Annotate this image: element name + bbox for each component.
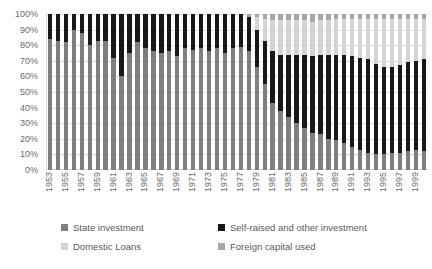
plot-area (46, 14, 428, 170)
bar-segment (270, 20, 274, 51)
x-axis-tick-label: 1993 (363, 172, 372, 192)
bar-segment (294, 123, 298, 170)
bar-segment (334, 55, 338, 141)
x-axis-tick-label: 1977 (236, 172, 245, 192)
bar-column (151, 14, 155, 170)
bar-segment (135, 42, 139, 170)
bar-column (270, 14, 274, 170)
bar-column (135, 14, 139, 170)
bar-column (247, 14, 251, 170)
bar-segment (358, 150, 362, 170)
legend-label-domestic-loans: Domestic Loans (73, 241, 141, 252)
legend-item-state-investment[interactable]: State investment (61, 222, 144, 233)
bar-segment (414, 61, 418, 150)
x-axis-tick-label: 1965 (140, 172, 149, 192)
bar-segment (390, 153, 394, 170)
bar-segment (358, 58, 362, 150)
bar-segment (103, 41, 107, 170)
y-axis-tick-label: 60% (20, 72, 38, 81)
bar-segment (326, 55, 330, 139)
bar-segment (310, 56, 314, 132)
bar-segment (414, 19, 418, 61)
y-axis: 0%10%20%30%40%50%60%70%80%90%100% (0, 14, 42, 170)
bar-segment (207, 14, 211, 51)
stacked-bar-chart: 0%10%20%30%40%50%60%70%80%90%100% 195319… (0, 0, 432, 269)
bar-column (191, 14, 195, 170)
bar-segment (239, 47, 243, 170)
bar-segment (382, 19, 386, 67)
bar-column (390, 14, 394, 170)
bar-segment (183, 14, 187, 48)
bar-segment (302, 128, 306, 170)
bar-column (48, 14, 52, 170)
y-axis-tick-label: 0% (25, 166, 38, 175)
x-axis-tick-label: 1967 (156, 172, 165, 192)
bar-column (111, 14, 115, 170)
bar-segment (263, 19, 267, 41)
bar-column (342, 14, 346, 170)
bar-segment (119, 14, 123, 76)
bar-segment (318, 20, 322, 54)
bar-segment (88, 14, 92, 45)
bar-segment (143, 14, 147, 48)
bar-column (286, 14, 290, 170)
bar-segment (48, 14, 52, 39)
bar-segment (167, 51, 171, 170)
bar-segment (342, 143, 346, 170)
bar-segment (422, 151, 426, 170)
bar-segment (151, 14, 155, 51)
chart-legend: State investment Self-raised and other i… (0, 220, 432, 264)
bar-segment (294, 20, 298, 54)
bar-segment (64, 42, 68, 170)
bar-segment (358, 19, 362, 58)
bar-segment (111, 14, 115, 58)
x-axis-tick-label: 1953 (45, 172, 54, 192)
bar-column (143, 14, 147, 170)
legend-swatch-foreign-capital (218, 243, 225, 250)
bar-segment (72, 14, 76, 30)
bar-column (302, 14, 306, 170)
bar-segment (326, 20, 330, 54)
bar-segment (398, 153, 402, 170)
bar-column (88, 14, 92, 170)
y-axis-tick-label: 20% (20, 134, 38, 143)
bar-column (56, 14, 60, 170)
bar-column (278, 14, 282, 170)
bar-column (350, 14, 354, 170)
bar-segment (382, 67, 386, 154)
bar-column (422, 14, 426, 170)
bar-segment (223, 14, 227, 53)
bar-segment (239, 14, 243, 47)
legend-label-foreign-capital: Foreign capital used (230, 241, 316, 252)
bar-segment (366, 153, 370, 170)
x-axis-tick-label: 1973 (204, 172, 213, 192)
bar-segment (207, 51, 211, 170)
bar-segment (255, 30, 259, 67)
bar-column (334, 14, 338, 170)
y-axis-tick-label: 70% (20, 56, 38, 65)
legend-item-foreign-capital[interactable]: Foreign capital used (218, 241, 316, 252)
bar-column (215, 14, 219, 170)
x-axis-tick-label: 1979 (252, 172, 261, 192)
legend-label-self-raised: Self-raised and other investment (230, 222, 367, 233)
bar-column (366, 14, 370, 170)
bar-column (294, 14, 298, 170)
bar-column (398, 14, 402, 170)
bar-segment (56, 41, 60, 170)
bar-segment (119, 76, 123, 170)
bar-column (72, 14, 76, 170)
x-axis-tick-label: 1959 (93, 172, 102, 192)
bar-segment (111, 58, 115, 170)
bar-segment (199, 48, 203, 170)
x-axis-tick-label: 1999 (411, 172, 420, 192)
legend-item-self-raised[interactable]: Self-raised and other investment (218, 222, 367, 233)
legend-item-domestic-loans[interactable]: Domestic Loans (61, 241, 141, 252)
x-axis-tick-label: 1997 (395, 172, 404, 192)
bar-segment (159, 53, 163, 170)
bar-segment (286, 55, 290, 117)
bar-series-container (46, 14, 428, 170)
bar-segment (103, 14, 107, 41)
bar-segment (374, 19, 378, 64)
y-axis-tick-label: 100% (15, 10, 38, 19)
bar-segment (80, 14, 84, 33)
